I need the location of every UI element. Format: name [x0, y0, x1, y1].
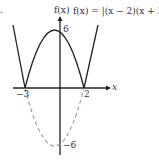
x-axis-label: x — [112, 83, 117, 92]
y-tick-6: 6 — [63, 25, 69, 34]
left-branch — [13, 25, 25, 88]
corner-mark: . — [0, 6, 3, 15]
y-axis-label: f(x) — [54, 6, 69, 15]
reflected-arch — [25, 30, 84, 88]
right-branch — [84, 25, 98, 88]
x-tick-neg3: −3 — [16, 90, 29, 99]
equation-label: f(x) = |(x − 2)(x + 3)| — [73, 7, 159, 16]
x-axis-arrow-icon — [106, 86, 111, 91]
dashed-parabola — [25, 88, 84, 146]
y-axis-arrow-icon — [58, 16, 63, 21]
y-tick-neg6: −6 — [63, 141, 76, 150]
x-tick-2: 2 — [84, 90, 90, 99]
graph — [0, 0, 159, 160]
